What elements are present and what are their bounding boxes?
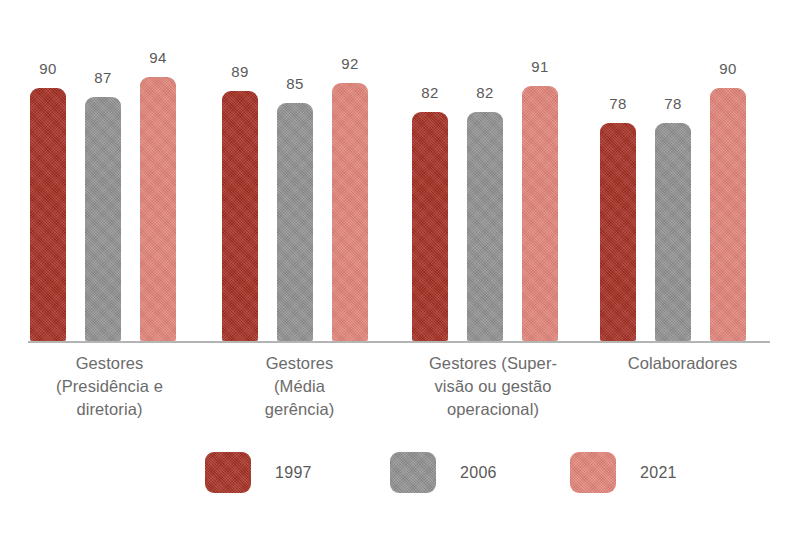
bar-group: 908794 (30, 0, 176, 345)
plot-area: 908794898592828291787890 (0, 0, 785, 345)
legend-swatch (205, 452, 251, 493)
bar[interactable] (277, 103, 313, 341)
category-label-line: Gestores (212, 352, 387, 375)
bar-group: 898592 (222, 0, 368, 345)
bar[interactable] (412, 112, 448, 341)
bar[interactable] (710, 88, 746, 341)
category-label-line: operacional) (398, 398, 588, 421)
legend-label: 2021 (640, 464, 677, 482)
category-label: Gestores (Super-visão ou gestãooperacion… (398, 352, 588, 421)
category-label-line: Colaboradores (590, 352, 775, 375)
legend-label: 1997 (275, 464, 312, 482)
bar[interactable] (140, 77, 176, 341)
category-label-line: visão ou gestão (398, 375, 588, 398)
bar-value-label: 85 (272, 75, 318, 92)
chart-legend: 199720062021 (0, 452, 785, 508)
bar-value-label: 82 (407, 84, 453, 101)
bar-value-label: 78 (595, 95, 641, 112)
legend-item[interactable]: 1997 (205, 452, 312, 493)
bar[interactable] (30, 88, 66, 341)
bar[interactable] (522, 86, 558, 342)
bar-value-label: 92 (327, 55, 373, 72)
legend-swatch (390, 452, 436, 493)
bar-value-label: 94 (135, 49, 181, 66)
bar-chart: 908794898592828291787890 Gestores(Presid… (0, 0, 785, 538)
bar-group: 787890 (600, 0, 746, 345)
category-label-line: Gestores (22, 352, 197, 375)
bar-value-label: 78 (650, 95, 696, 112)
legend-swatch (570, 452, 616, 493)
bar[interactable] (467, 112, 503, 341)
bar-value-label: 91 (517, 58, 563, 75)
bar-value-label: 89 (217, 63, 263, 80)
category-label: Colaboradores (590, 352, 775, 375)
bar[interactable] (222, 91, 258, 341)
bar[interactable] (655, 123, 691, 341)
category-label-line: diretoria) (22, 398, 197, 421)
category-label-line: gerência) (212, 398, 387, 421)
category-label-line: Gestores (Super- (398, 352, 588, 375)
category-label-line: (Média (212, 375, 387, 398)
bar-value-label: 90 (25, 60, 71, 77)
bar-value-label: 82 (462, 84, 508, 101)
bar-value-label: 90 (705, 60, 751, 77)
category-label: Gestores(Presidência ediretoria) (22, 352, 197, 421)
category-label-line: (Presidência e (22, 375, 197, 398)
bar[interactable] (600, 123, 636, 341)
category-label: Gestores(Médiagerência) (212, 352, 387, 421)
legend-item[interactable]: 2021 (570, 452, 677, 493)
bar[interactable] (332, 83, 368, 341)
legend-label: 2006 (460, 464, 497, 482)
bar[interactable] (85, 97, 121, 341)
legend-item[interactable]: 2006 (390, 452, 497, 493)
bar-value-label: 87 (80, 69, 126, 86)
bar-group: 828291 (412, 0, 558, 345)
